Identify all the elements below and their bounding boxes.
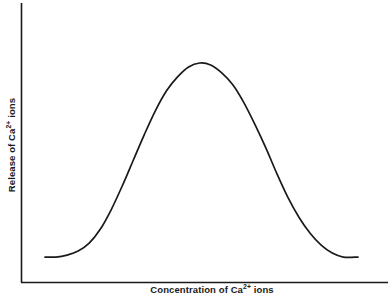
x-axis-label-superscript: 2+: [243, 283, 251, 290]
bell-curve-line: [45, 63, 358, 257]
y-axis-label: Release of Ca2+ ions: [7, 98, 17, 192]
chart-figure: Release of Ca2+ ions Concentration of Ca…: [0, 0, 390, 294]
x-axis-label: Concentration of Ca2+ ions: [150, 285, 273, 294]
y-axis-label-superscript: 2+: [5, 121, 12, 129]
y-axis-label-tail: ions: [6, 98, 17, 121]
y-axis-label-base: Release of Ca: [6, 129, 17, 193]
x-axis-label-tail: ions: [251, 284, 274, 294]
chart-plot-area: [0, 0, 390, 294]
x-axis-label-base: Concentration of Ca: [150, 284, 243, 294]
